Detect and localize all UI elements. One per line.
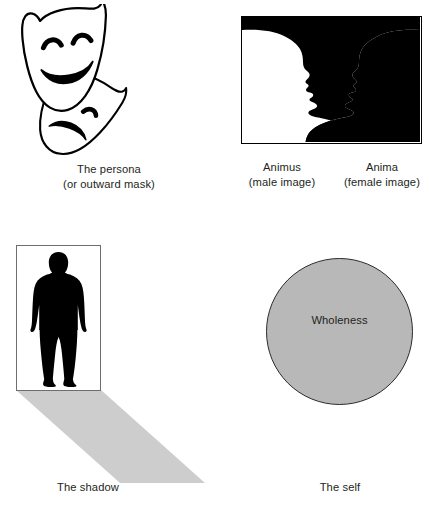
person-frame (16, 245, 101, 391)
caption-the-persona: The persona (or outward mask) (9, 162, 209, 192)
panel-the-self: Wholeness The self (218, 230, 436, 511)
caption-line: Animus (234, 160, 330, 175)
caption-line: (or outward mask) (9, 177, 209, 192)
caption-animus: Animus (male image) (234, 160, 330, 190)
caption-line: The self (270, 480, 410, 495)
caption-line: Anima (330, 160, 434, 175)
caption-line: The persona (9, 162, 209, 177)
caption-anima: Anima (female image) (330, 160, 434, 190)
caption-line: (female image) (330, 175, 434, 190)
panel-the-shadow: The shadow (0, 230, 218, 511)
rubin-vase-icon (242, 17, 420, 142)
theatre-masks-icon (12, 4, 162, 166)
caption-line: (male image) (234, 175, 330, 190)
wholeness-label: Wholeness (267, 314, 412, 326)
caption-the-self: The self (270, 480, 410, 495)
person-silhouette-icon (17, 246, 100, 390)
wholeness-circle: Wholeness (266, 258, 413, 405)
face-vase-illusion-box (241, 16, 422, 144)
panel-animus-anima: Animus (male image) Anima (female image) (218, 0, 436, 210)
panel-the-persona: The persona (or outward mask) (0, 0, 218, 210)
figure-canvas: The persona (or outward mask) Animus (ma… (0, 0, 436, 511)
shadow-scene (0, 238, 218, 488)
